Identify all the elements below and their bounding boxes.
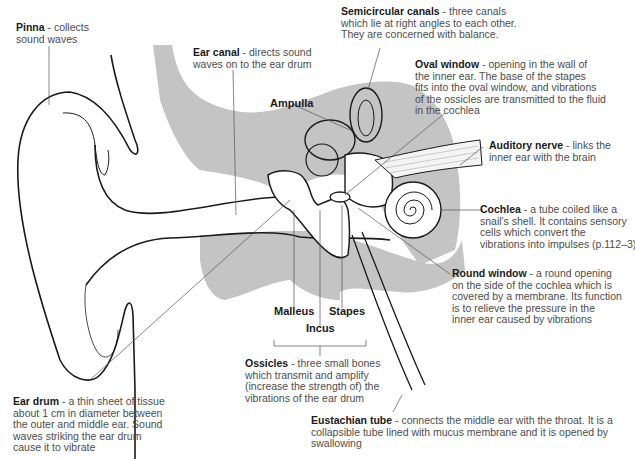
label-oval-window: Oval window - opening in the wall ofthe … [415,59,606,117]
label-ear-canal: Ear canal - directs soundwaves on to the… [193,47,312,70]
label-round-window: Round window - a round openingon the sid… [452,268,622,326]
ear-diagram: Pinna - collectssound waves Semicircular… [0,0,635,459]
cochlea-outline [385,182,441,238]
label-ampulla: Ampulla [270,97,313,109]
label-incus: Incus [306,322,335,334]
label-eustachian-tube: Eustachian tube - connects the middle ea… [311,415,613,450]
label-stapes: Stapes [329,305,365,317]
pinna-inner-fold [63,113,109,175]
lobe-inner [85,285,118,357]
label-cochlea: Cochlea - a tube coiled like asnail's sh… [480,204,635,250]
label-malleus: Malleus [274,305,314,317]
label-semicircular-canals: Semicircular canals - three canalswhich … [341,6,517,41]
label-ossicles: Ossicles - three small boneswhich transm… [245,358,380,404]
label-auditory-nerve: Auditory nerve - links theinner ear with… [489,140,611,163]
label-ear-drum: Ear drum - a thin sheet of tissueabout 1… [13,396,165,454]
label-pinna: Pinna - collectssound waves [16,22,89,45]
